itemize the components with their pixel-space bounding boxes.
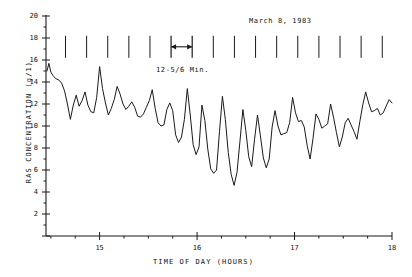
x-axis-tick-label: 15	[90, 244, 110, 252]
y-axis-tick-label: 12	[22, 100, 38, 108]
interval-arrow-head-right	[187, 44, 192, 49]
y-axis-tick-label: 10	[22, 122, 38, 130]
x-axis-tick-label: 17	[285, 244, 305, 252]
data-series-line	[47, 63, 392, 185]
y-axis-tick-label: 20	[22, 12, 38, 20]
y-axis-tick-label: 14	[22, 78, 38, 86]
x-axis-title: TIME OF DAY (HOURS)	[153, 258, 254, 266]
interval-annotation: 12-5/6 Min.	[156, 66, 209, 74]
y-axis-tick-label: 6	[22, 166, 38, 174]
x-axis-tick-label: 18	[382, 244, 402, 252]
y-axis-tick-label: 8	[22, 144, 38, 152]
x-axis-tick-label: 16	[187, 244, 207, 252]
y-axis-tick-label: 16	[22, 56, 38, 64]
y-axis-tick-label: 4	[22, 188, 38, 196]
line-chart-plot	[0, 0, 412, 277]
y-axis-tick-label: 2	[22, 210, 38, 218]
date-annotation: March 8, 1983	[249, 17, 312, 25]
interval-arrow-head-left	[171, 44, 176, 49]
y-axis-tick-label: 18	[22, 34, 38, 42]
chart-figure: March 8, 1983 12-5/6 Min. TIME OF DAY (H…	[0, 0, 412, 277]
